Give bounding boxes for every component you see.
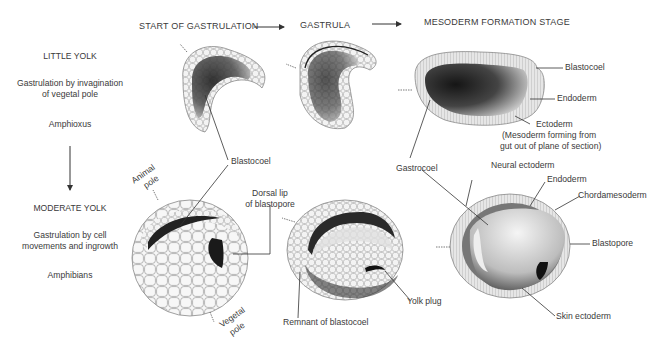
figure-amphibian-start	[132, 190, 248, 322]
label-neural-ectoderm: Neural ectoderm	[491, 161, 555, 171]
label-yolk-plug: Yolk plug	[407, 297, 442, 307]
row1-title: LITTLE YOLK	[20, 52, 120, 62]
label-endoderm-top: Endoderm	[557, 94, 597, 104]
label-chordamesoderm: Chordamesoderm	[578, 191, 647, 201]
figure-amphioxus-mesoderm	[398, 52, 544, 126]
label-blastocoel-top: Blastocoel	[565, 63, 605, 73]
row1-description-line1: Gastrulation by invagination	[10, 79, 130, 89]
label-dorsal-lip-line1: Dorsal lip	[240, 189, 300, 199]
label-blastopore: Blastopore	[592, 239, 633, 249]
figure-amphioxus-start	[180, 44, 265, 132]
row1-organism: Amphioxus	[20, 120, 120, 130]
label-mesoderm-note-line2: gut out of plane of section)	[500, 142, 601, 152]
figure-amphibian-mesoderm	[436, 194, 570, 298]
label-gastrocoel: Gastrocoel	[396, 164, 438, 174]
stage-title-start-of-gastrulation: START OF GASTRULATION	[139, 21, 259, 31]
row2-title: MODERATE YOLK	[20, 204, 120, 214]
row2-organism: Amphibians	[20, 271, 120, 281]
label-endoderm-bottom: Endoderm	[547, 175, 587, 185]
stage-title-mesoderm-formation: MESODERM FORMATION STAGE	[424, 17, 570, 27]
figure-amphioxus-gastrula	[286, 41, 376, 129]
label-skin-ectoderm: Skin ectoderm	[556, 312, 611, 322]
row2-description-line1: Gastrulation by cell	[10, 231, 130, 241]
label-remnant-of-blastocoel: Remnant of blastocoel	[283, 318, 369, 328]
label-mesoderm-note-line1: (Mesoderm forming from	[502, 131, 596, 141]
row1-description-line2: of vegetal pole	[10, 90, 130, 100]
label-dorsal-lip-line2: of blastopore	[240, 200, 300, 210]
label-ectoderm: Ectoderm	[536, 120, 573, 130]
stage-title-gastrula: GASTRULA	[300, 20, 350, 30]
label-blastocoel-center: Blastocoel	[231, 157, 271, 167]
row2-description-line2: movements and ingrowth	[10, 242, 130, 252]
figure-amphibian-gastrula	[282, 200, 403, 300]
